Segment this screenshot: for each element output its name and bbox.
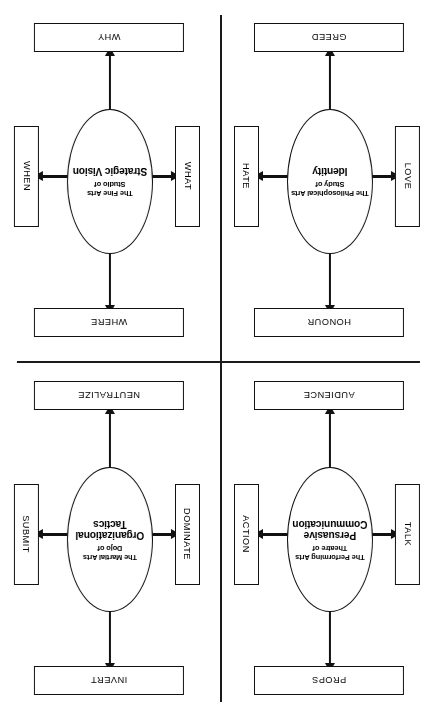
- arrow-up-icon: [109, 610, 111, 664]
- box-hate[interactable]: HATE: [234, 126, 259, 227]
- box-submit-label: SUBMIT: [22, 516, 32, 554]
- box-dominate-label: DOMINATE: [183, 509, 193, 561]
- ellipse-philosophical-arts-prefix: The Philosophical Arts Study of: [291, 179, 369, 196]
- box-invert[interactable]: INVERT: [34, 666, 184, 695]
- ellipse-performing-arts[interactable]: The Performing Arts Theatre of Persuasiv…: [287, 467, 373, 612]
- diagram-canvas: PROPS AUDIENCE TALK ACTION The Performin…: [0, 0, 440, 716]
- arrow-down-icon: [109, 413, 111, 468]
- box-why-label: WHY: [98, 33, 121, 43]
- box-neutralize-label: NEUTRALIZE: [78, 391, 140, 401]
- box-when[interactable]: WHEN: [14, 126, 39, 227]
- quadrant-martial-arts: INVERT NEUTRALIZE DOMINATE SUBMIT The Ma…: [0, 358, 220, 716]
- box-audience[interactable]: AUDIENCE: [254, 381, 404, 410]
- ellipse-philosophical-arts-title: Identity: [289, 166, 371, 177]
- arrow-down-icon: [329, 55, 331, 110]
- ellipse-fine-arts-title: Strategic Vision: [69, 166, 151, 177]
- box-talk[interactable]: TALK: [395, 484, 420, 585]
- box-props[interactable]: PROPS: [254, 666, 404, 695]
- box-invert-label: INVERT: [91, 676, 128, 686]
- box-what-label: WHAT: [183, 162, 193, 190]
- box-neutralize[interactable]: NEUTRALIZE: [34, 381, 184, 410]
- box-when-label: WHEN: [21, 161, 31, 191]
- box-what[interactable]: WHAT: [175, 126, 200, 227]
- arrow-up-icon: [329, 610, 331, 664]
- box-dominate[interactable]: DOMINATE: [175, 484, 200, 585]
- box-where[interactable]: WHERE: [34, 308, 184, 337]
- box-greed[interactable]: GREED: [254, 23, 404, 52]
- quadrant-philosophical-arts: HONOUR GREED LOVE HATE The Philosophical…: [220, 0, 440, 358]
- four-quadrant-diagram: PROPS AUDIENCE TALK ACTION The Performin…: [0, 0, 440, 716]
- ellipse-martial-arts[interactable]: The Martial Arts Dojo of Organizational …: [67, 467, 153, 612]
- quadrant-performing-arts: PROPS AUDIENCE TALK ACTION The Performin…: [220, 358, 440, 716]
- box-action-label: ACTION: [242, 516, 252, 554]
- box-audience-label: AUDIENCE: [303, 391, 354, 401]
- box-love[interactable]: LOVE: [395, 126, 420, 227]
- box-why[interactable]: WHY: [34, 23, 184, 52]
- ellipse-fine-arts-prefix: The Fine Arts Studio of: [71, 179, 149, 196]
- box-talk-label: TALK: [402, 522, 412, 546]
- arrow-down-icon: [109, 55, 111, 110]
- arrow-up-icon: [329, 252, 331, 306]
- box-greed-label: GREED: [311, 33, 346, 43]
- ellipse-performing-arts-prefix: The Performing Arts Theatre of: [291, 543, 369, 560]
- box-where-label: WHERE: [91, 318, 128, 328]
- box-honour[interactable]: HONOUR: [254, 308, 404, 337]
- ellipse-martial-arts-prefix: The Martial Arts Dojo of: [71, 543, 149, 560]
- arrow-down-icon: [329, 413, 331, 468]
- box-honour-label: HONOUR: [307, 318, 351, 328]
- box-hate-label: HATE: [241, 164, 251, 190]
- ellipse-martial-arts-title: Organizational Tactics: [69, 518, 151, 541]
- box-action[interactable]: ACTION: [234, 484, 259, 585]
- ellipse-philosophical-arts[interactable]: The Philosophical Arts Study of Identity: [287, 109, 373, 254]
- box-props-label: PROPS: [312, 676, 347, 686]
- ellipse-performing-arts-title: Persuasive Communication: [289, 518, 371, 541]
- box-love-label: LOVE: [402, 163, 412, 190]
- arrow-up-icon: [109, 252, 111, 306]
- ellipse-fine-arts[interactable]: The Fine Arts Studio of Strategic Vision: [67, 109, 153, 254]
- box-submit[interactable]: SUBMIT: [14, 484, 39, 585]
- quadrant-fine-arts: WHERE WHY WHAT WHEN The Fine Arts Studio…: [0, 0, 220, 358]
